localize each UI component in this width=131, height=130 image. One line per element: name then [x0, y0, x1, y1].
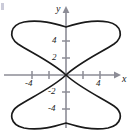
figure-panel: -4 4 4 2 -2 -4 y x: [0, 0, 131, 130]
x-axis-arrow: [114, 72, 121, 79]
x-tick-label-minus4: -4: [25, 79, 33, 88]
coordinate-plot: [0, 0, 131, 130]
y-tick-label-plus4: 4: [52, 36, 57, 45]
y-tick-label-minus4: -4: [48, 104, 56, 113]
y-axis-label: y: [56, 4, 60, 14]
x-tick-label-plus4: 4: [96, 79, 101, 88]
y-axis-arrow: [63, 6, 70, 13]
x-axis-label: x: [122, 74, 126, 84]
y-tick-label-plus2: 2: [52, 53, 57, 62]
y-tick-label-minus2: -2: [48, 87, 56, 96]
